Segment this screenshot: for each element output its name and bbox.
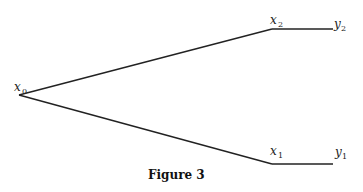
edges xyxy=(19,29,333,164)
label-x1: x 1 xyxy=(270,144,283,160)
label-x2: x 2 xyxy=(270,13,283,29)
svg-text:x: x xyxy=(270,144,277,158)
svg-text:0: 0 xyxy=(22,87,27,96)
svg-text:x: x xyxy=(270,13,277,27)
svg-text:y: y xyxy=(333,17,341,31)
svg-text:2: 2 xyxy=(341,24,346,33)
label-y1: y 1 xyxy=(334,145,347,161)
svg-text:2: 2 xyxy=(278,20,283,29)
svg-text:x: x xyxy=(14,80,21,94)
svg-text:y: y xyxy=(334,145,342,159)
svg-text:1: 1 xyxy=(342,152,347,161)
label-y2: y 2 xyxy=(333,17,346,33)
svg-text:1: 1 xyxy=(278,151,283,160)
figure-caption: Figure 3 xyxy=(148,168,205,182)
label-x0: x 0 xyxy=(14,80,27,96)
tree-diagram: x 0 x 2 y 2 x 1 y 1 Figure 3 xyxy=(0,0,363,192)
edge-x0-x1 xyxy=(19,95,272,164)
edge-x0-x2 xyxy=(19,29,272,95)
